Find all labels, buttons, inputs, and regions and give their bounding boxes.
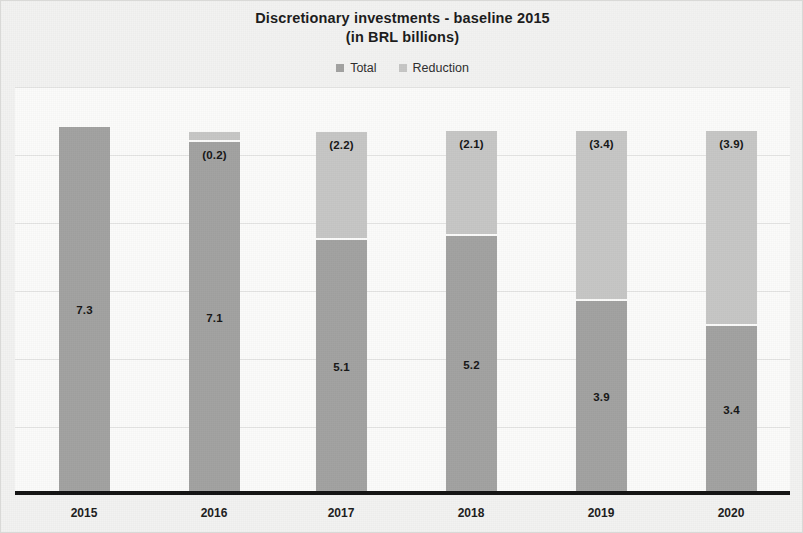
legend-item-total[interactable]: Total bbox=[336, 61, 376, 75]
legend-label-reduction: Reduction bbox=[413, 61, 469, 75]
bar-value-reduction-2017: (2.2) bbox=[316, 139, 367, 151]
bar-value-total-2019: 3.9 bbox=[576, 391, 627, 403]
x-axis-label-2018: 2018 bbox=[426, 506, 516, 520]
chart-subtitle: (in BRL billions) bbox=[1, 28, 803, 47]
bar-segment-reduction-2020[interactable]: (3.9) bbox=[706, 131, 757, 326]
bar-segment-total-2020[interactable]: 3.4 bbox=[706, 326, 757, 493]
bar-group-2020[interactable]: (3.9) 3.4 bbox=[706, 131, 757, 493]
chart-frame: Discretionary investments - baseline 201… bbox=[0, 0, 803, 533]
bar-segment-total-2017[interactable]: 5.1 bbox=[316, 240, 367, 493]
x-axis-label-2017: 2017 bbox=[296, 506, 386, 520]
x-axis-label-2016: 2016 bbox=[169, 506, 259, 520]
bar-value-total-2015: 7.3 bbox=[59, 304, 110, 316]
bar-value-reduction-2018: (2.1) bbox=[446, 138, 497, 150]
x-axis-category-labels: 2015 2016 2017 2018 2019 2020 bbox=[1, 506, 803, 528]
x-axis-label-2019: 2019 bbox=[556, 506, 646, 520]
chart-title: Discretionary investments - baseline 201… bbox=[1, 9, 803, 28]
bar-segment-reduction-2016[interactable] bbox=[189, 132, 240, 142]
bar-value-total-2017: 5.1 bbox=[316, 361, 367, 373]
bar-group-2015[interactable]: 7.3 bbox=[59, 127, 110, 493]
bar-group-2016[interactable]: (0.2) 7.1 bbox=[189, 132, 240, 493]
bar-segment-total-2018[interactable]: 5.2 bbox=[446, 236, 497, 493]
bar-segment-total-2016[interactable]: (0.2) 7.1 bbox=[189, 142, 240, 493]
bar-value-reduction-2020: (3.9) bbox=[706, 138, 757, 150]
x-axis-label-2015: 2015 bbox=[39, 506, 129, 520]
bar-value-total-2018: 5.2 bbox=[446, 359, 497, 371]
chart-legend: Total Reduction bbox=[1, 61, 803, 75]
legend-item-reduction[interactable]: Reduction bbox=[399, 61, 469, 75]
x-axis-line bbox=[15, 491, 790, 495]
bar-value-total-2020: 3.4 bbox=[706, 404, 757, 416]
bar-value-reduction-2019: (3.4) bbox=[576, 138, 627, 150]
legend-swatch-reduction-icon bbox=[399, 64, 407, 72]
bar-segment-reduction-2019[interactable]: (3.4) bbox=[576, 131, 627, 301]
bar-group-2018[interactable]: (2.1) 5.2 bbox=[446, 131, 497, 493]
x-axis-label-2020: 2020 bbox=[686, 506, 776, 520]
bar-value-reduction-2016: (0.2) bbox=[189, 149, 240, 161]
legend-label-total: Total bbox=[350, 61, 376, 75]
bars-layer: 7.3 (0.2) 7.1 (2.2) 5.1 (2.1) bbox=[1, 1, 803, 533]
bar-segment-total-2015[interactable]: 7.3 bbox=[59, 127, 110, 493]
bar-segment-total-2019[interactable]: 3.9 bbox=[576, 301, 627, 493]
bar-value-total-2016: 7.1 bbox=[189, 312, 240, 324]
bar-segment-reduction-2018[interactable]: (2.1) bbox=[446, 131, 497, 236]
bar-group-2017[interactable]: (2.2) 5.1 bbox=[316, 132, 367, 493]
bar-group-2019[interactable]: (3.4) 3.9 bbox=[576, 131, 627, 493]
bar-segment-reduction-2017[interactable]: (2.2) bbox=[316, 132, 367, 240]
legend-swatch-total-icon bbox=[336, 64, 344, 72]
chart-title-block: Discretionary investments - baseline 201… bbox=[1, 9, 803, 47]
